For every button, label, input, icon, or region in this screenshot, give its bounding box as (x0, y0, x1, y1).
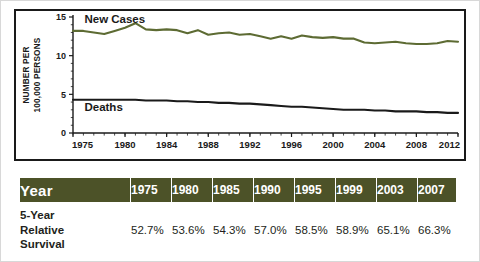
row-label-line-3: Survival (20, 238, 65, 250)
x-tick-label-2008: 2008 (406, 139, 427, 150)
table-header-1990: 1990 (254, 178, 295, 203)
x-tick-label-1988: 1988 (198, 139, 219, 150)
figure-container: 0510151975198019841988199219962000200420… (0, 0, 480, 262)
row-label-line-2: Relative (20, 224, 64, 236)
table-header-year: Year (20, 178, 131, 203)
series-line-deaths (73, 100, 458, 113)
x-tick-label-2000: 2000 (323, 139, 344, 150)
table-header-1980: 1980 (172, 178, 213, 203)
x-tick-label-1975: 1975 (72, 139, 94, 150)
y-tick-label-5: 5 (61, 90, 66, 100)
table-header-1999: 1999 (336, 178, 377, 203)
series-line-new-cases (73, 23, 458, 44)
table-head: Year 1975 1980 1985 1990 1995 1999 2003 … (20, 178, 457, 203)
table-body: 5-Year Relative Survival 52.7% 53.6% 54.… (20, 203, 457, 258)
cell-survival-1995: 58.5% (295, 203, 336, 258)
y-tick-label-0: 0 (61, 128, 66, 138)
table-row: 5-Year Relative Survival 52.7% 53.6% 54.… (20, 203, 457, 258)
row-label-line-1: 5-Year (20, 209, 55, 221)
cell-survival-2007: 66.3% (418, 203, 457, 258)
table-header-1995: 1995 (295, 178, 336, 203)
x-tick-label-2004: 2004 (364, 139, 386, 150)
cell-survival-1985: 54.3% (213, 203, 254, 258)
table-header-row: Year 1975 1980 1985 1990 1995 1999 2003 … (20, 178, 457, 203)
y-tick-label-15: 15 (56, 12, 66, 22)
cell-survival-2003: 65.1% (377, 203, 418, 258)
x-tick-label-1992: 1992 (239, 139, 260, 150)
x-tick-label-1984: 1984 (156, 139, 178, 150)
line-chart: 0510151975198019841988199219962000200420… (16, 11, 464, 159)
cell-survival-1980: 53.6% (172, 203, 213, 258)
table-header-2003: 2003 (377, 178, 418, 203)
cell-survival-1975: 52.7% (131, 203, 172, 258)
x-tick-label-1980: 1980 (114, 139, 135, 150)
x-tick-label-1996: 1996 (281, 139, 302, 150)
cell-survival-1990: 57.0% (254, 203, 295, 258)
y-tick-label-10: 10 (56, 51, 66, 61)
series-label-deaths: Deaths (84, 101, 122, 113)
row-label-survival: 5-Year Relative Survival (20, 203, 131, 258)
x-tick-label-2012: 2012 (439, 139, 460, 150)
table-header-1975: 1975 (131, 178, 172, 203)
series-label-new-cases: New Cases (84, 13, 145, 25)
y-axis-title-line-1: NUMBER PER (22, 46, 31, 103)
chart-panel: 0510151975198019841988199219962000200420… (14, 9, 466, 161)
y-axis-title-line-2: 100,000 PERSONS (33, 37, 42, 112)
table-header-2007: 2007 (418, 178, 457, 203)
cell-survival-1999: 58.9% (336, 203, 377, 258)
table-header-1985: 1985 (213, 178, 254, 203)
survival-table: Year 1975 1980 1985 1990 1995 1999 2003 … (19, 177, 457, 258)
